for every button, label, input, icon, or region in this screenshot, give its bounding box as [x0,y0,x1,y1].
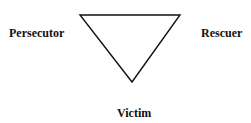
persecutor-label: Persecutor [9,26,64,40]
triangle-diagram [0,0,251,123]
rescuer-label: Rescuer [201,26,242,40]
victim-label: Victim [117,106,151,120]
inverted-triangle [80,15,180,82]
